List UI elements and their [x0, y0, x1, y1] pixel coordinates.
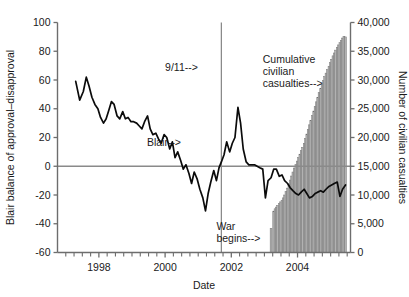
left-axis-ticklabel: 20 [39, 131, 51, 143]
cumulative-casualties-label: Cumulative [263, 53, 316, 65]
left-axis-ticklabel: -40 [35, 217, 50, 229]
right-axis-ticklabel: 5,000 [358, 217, 384, 229]
right-axis-ticklabel: 20,000 [358, 131, 390, 143]
left-axis-ticklabel: 100 [33, 16, 51, 28]
war-begins-label: begins--> [216, 232, 260, 244]
bottom-axis-ticklabel: 2000 [153, 261, 177, 273]
cumulative-casualties-label: casualties--> [263, 77, 323, 89]
left-axis-ticklabel: -60 [35, 246, 50, 258]
left-axis-ticklabel: 60 [39, 74, 51, 86]
left-axis-ticklabel: -20 [35, 189, 50, 201]
left-axis-ticklabel: 80 [39, 45, 51, 57]
right-axis-ticklabel: 35,000 [358, 45, 390, 57]
right-axis-ticklabel: 0 [358, 246, 364, 258]
cumulative-casualties-label: civilian [263, 65, 295, 77]
blair-label: Blair--> [147, 136, 181, 148]
left-axis-title: Blair balance of approval–disapproval [4, 50, 16, 225]
right-axis-ticklabel: 30,000 [358, 74, 390, 86]
bottom-axis-ticklabel: 2004 [286, 261, 310, 273]
bottom-axis-title: Date [193, 279, 215, 291]
war-begins-label: War [216, 220, 235, 232]
right-axis-title: Number of civilian casualties [397, 71, 409, 204]
bottom-axis-ticklabel: 2002 [220, 261, 244, 273]
left-axis-ticklabel: 0 [45, 160, 51, 172]
right-axis-ticklabel: 25,000 [358, 102, 390, 114]
right-axis-ticklabel: 15,000 [358, 160, 390, 172]
right-axis-ticklabel: 10,000 [358, 189, 390, 201]
right-axis-ticklabel: 40,000 [358, 16, 390, 28]
nine-eleven-label: 9/11--> [165, 61, 198, 73]
casualty-bar [345, 37, 347, 253]
chart-figure: -60-40-20020406080100Blair balance of ap… [0, 0, 409, 297]
left-axis-ticklabel: 40 [39, 102, 51, 114]
bottom-axis-ticklabel: 1998 [87, 261, 111, 273]
chart-svg: -60-40-20020406080100Blair balance of ap… [0, 0, 409, 297]
casualty-bar [270, 228, 272, 252]
